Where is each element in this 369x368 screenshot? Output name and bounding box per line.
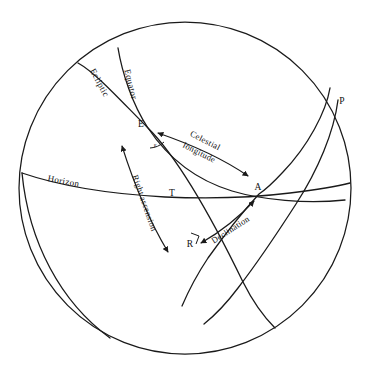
right-ascension-label: Right ascension [130, 173, 159, 233]
ecliptic-curve [78, 63, 275, 328]
obliquity-angle-label: ε [154, 141, 157, 148]
celestial-sphere-figure: E P A T R ε Ecliptic Equator Horizon Cel… [0, 0, 369, 368]
horizon-label: Horizon [47, 173, 80, 189]
sphere-outline [19, 22, 351, 354]
point-label-T: T [169, 188, 175, 198]
secondary-meridian-arc [204, 100, 338, 324]
point-label-R: R [187, 239, 194, 249]
point-label-P: P [339, 96, 344, 106]
ecliptic-label: Ecliptic [88, 67, 111, 99]
limb-arc-left [22, 173, 110, 338]
declination-meridian-arc [182, 88, 330, 306]
equator-label: Equator [122, 68, 139, 100]
point-label-E: E [138, 119, 144, 129]
celestial-sphere-diagram: E P A T R ε Ecliptic Equator Horizon Cel… [0, 0, 369, 368]
point-label-A: A [255, 182, 262, 192]
